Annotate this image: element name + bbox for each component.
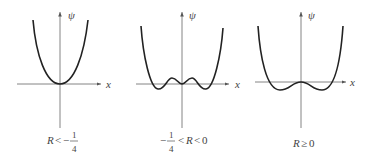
caption: R ≥ 0	[292, 137, 315, 149]
caption-rhs: 0	[309, 137, 315, 149]
caption-sign: −	[63, 134, 69, 146]
caption-var: R	[46, 134, 54, 146]
caption-num: 1	[169, 130, 174, 140]
caption-den: 4	[169, 144, 174, 154]
caption-rhs: 0	[202, 134, 208, 146]
y-axis-label: ψ	[189, 9, 196, 21]
x-axis-label: x	[349, 76, 355, 88]
caption-var: R	[292, 137, 300, 149]
x-axis-label: x	[234, 78, 240, 90]
figure: ψ x R < − 1 4 ψ x − 1 4 < R < 0	[0, 0, 369, 167]
potential-curve	[258, 26, 343, 90]
y-axis-label: ψ	[68, 9, 75, 21]
panel-2: ψ x − 1 4 < R < 0	[136, 9, 240, 154]
caption-sign: −	[160, 134, 166, 146]
x-axis-label: x	[105, 78, 111, 90]
caption-rel2: <	[194, 134, 200, 146]
potential-curve	[33, 20, 88, 84]
caption-rel1: <	[178, 134, 184, 146]
panel-3: ψ x R ≥ 0	[255, 9, 355, 149]
caption-den: 4	[72, 144, 77, 154]
caption-num: 1	[72, 130, 77, 140]
y-axis-label: ψ	[308, 9, 315, 21]
panel-1: ψ x R < − 1 4	[17, 9, 111, 154]
caption: R < − 1 4	[46, 130, 78, 154]
caption-rel: <	[55, 134, 61, 146]
caption: − 1 4 < R < 0	[160, 130, 208, 154]
caption-rel: ≥	[301, 137, 307, 149]
caption-var: R	[185, 134, 193, 146]
